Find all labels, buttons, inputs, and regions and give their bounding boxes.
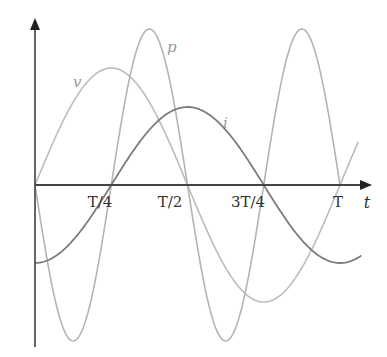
y-axis-arrow-icon	[30, 18, 40, 30]
tick-label-quarter: T/4	[88, 193, 113, 211]
tick-label-three-quarter: 3T/4	[231, 193, 265, 211]
curve-label-v: v	[73, 73, 82, 91]
curve-label-i: i	[223, 114, 228, 132]
tick-label-period: T	[333, 193, 343, 211]
tick-label-half: T/2	[158, 193, 183, 211]
waveform-chart: T/4 T/2 3T/4 T t v p i	[0, 0, 387, 357]
x-axis-arrow-icon	[360, 180, 372, 190]
x-axis-label: t	[364, 193, 371, 212]
curve-label-p: p	[167, 38, 177, 56]
